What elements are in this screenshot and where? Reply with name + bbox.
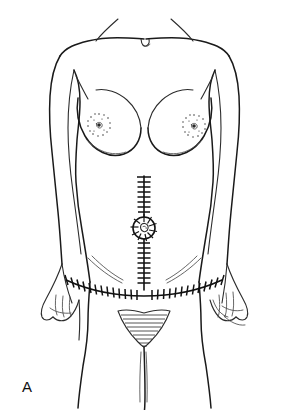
figure-container: A — [0, 0, 289, 410]
surgical-illustration: A — [0, 0, 289, 410]
left-nipple-center — [97, 123, 101, 127]
right-nipple-center — [192, 124, 196, 128]
panel-label: A — [22, 378, 32, 395]
